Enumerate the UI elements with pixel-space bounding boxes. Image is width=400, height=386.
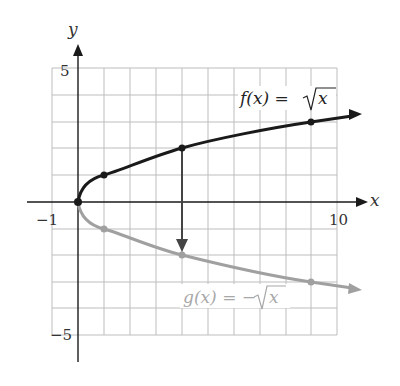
- chart: y x −1 10 5 −5 f(x) = x g(x) = − x: [0, 0, 400, 386]
- g-radicand: x: [269, 287, 279, 307]
- series-g: [78, 202, 362, 294]
- tick-x-neg1: −1: [36, 211, 58, 229]
- tick-y-5: 5: [60, 62, 70, 80]
- reflection-arrow: [176, 148, 188, 252]
- g-label: g(x) = −: [183, 287, 256, 307]
- tick-x-10: 10: [329, 211, 348, 229]
- tick-y-neg5: −5: [50, 326, 72, 344]
- series-f: [74, 109, 362, 206]
- y-axis-label: y: [67, 19, 78, 39]
- f-label: f(x) =: [238, 88, 289, 108]
- x-axis-label: x: [370, 190, 380, 210]
- f-radicand: x: [318, 88, 328, 108]
